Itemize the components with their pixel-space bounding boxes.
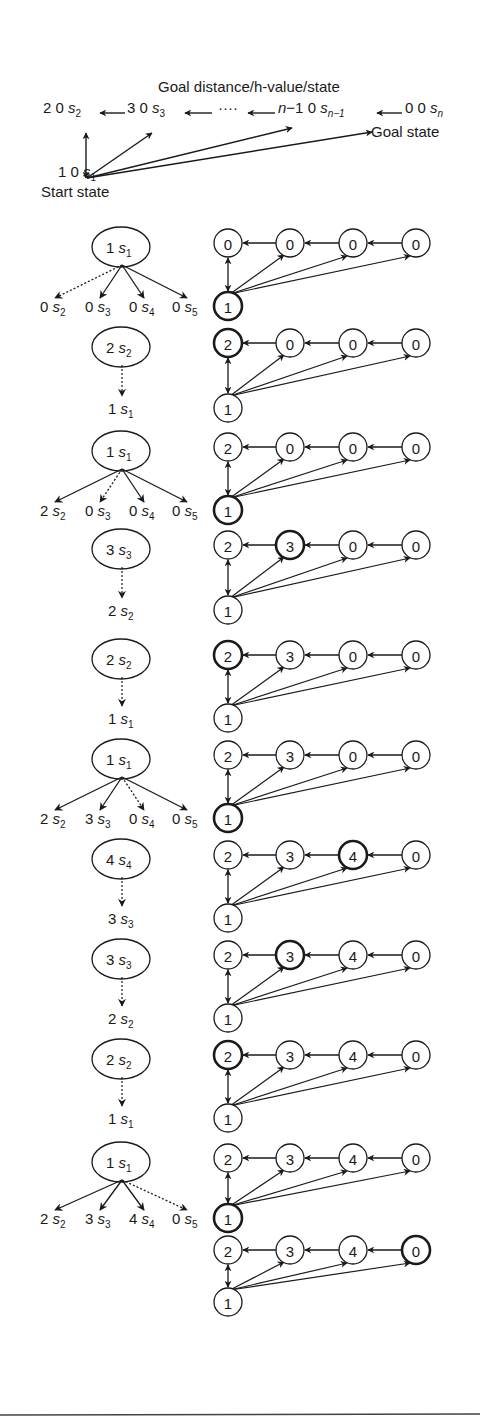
- svg-text:0: 0: [412, 948, 420, 965]
- svg-text:3 0 s3: 3 0 s3: [127, 99, 166, 119]
- state-graph: 23401: [214, 1041, 430, 1132]
- state-node: 3: [276, 531, 304, 559]
- svg-text:4: 4: [349, 848, 357, 865]
- svg-text:n−1 0 sn−1: n−1 0 sn−1: [278, 99, 345, 119]
- step-row: 200011 s12 s20 s30 s40 s5: [40, 431, 430, 524]
- svg-text:4: 4: [349, 1243, 357, 1260]
- svg-text:3: 3: [286, 538, 294, 555]
- svg-text:4: 4: [349, 948, 357, 965]
- svg-text:2: 2: [224, 648, 232, 665]
- chain-node-s3: 3 0 s3: [127, 99, 166, 119]
- state-node: 0: [339, 433, 367, 461]
- step-row: 234014 s43 s3: [92, 839, 430, 932]
- state-node-start: 1: [214, 804, 242, 832]
- svg-text:3: 3: [286, 848, 294, 865]
- step-row: 234012 s21 s1: [92, 1039, 430, 1132]
- svg-text:1 0 s1: 1 0 s1: [58, 163, 97, 183]
- state-node: 2: [214, 841, 242, 869]
- state-graph: 23401: [214, 941, 430, 1032]
- state-node: 3: [276, 741, 304, 769]
- svg-text:1: 1: [224, 401, 232, 418]
- state-node: 0: [339, 229, 367, 257]
- svg-text:0: 0: [349, 236, 357, 253]
- state-graph: 20001: [214, 329, 430, 422]
- expansion-tree: 1 s10 s20 s30 s40 s5: [40, 227, 198, 318]
- svg-text:2 0 s2: 2 0 s2: [43, 99, 82, 119]
- svg-text:2: 2: [224, 440, 232, 457]
- step-list: 000011 s10 s20 s30 s40 s5200012 s21 s120…: [40, 227, 430, 1316]
- svg-text:0: 0: [412, 1243, 420, 1260]
- state-node: 3: [276, 1144, 304, 1172]
- svg-text:3: 3: [286, 748, 294, 765]
- svg-text:0: 0: [412, 648, 420, 665]
- chain-node-s2: 2 0 s2: [43, 99, 82, 119]
- state-node: 0: [339, 741, 367, 769]
- child-node-label: 3 s3: [85, 1210, 111, 1230]
- move-target-label: 2 s2: [108, 1010, 134, 1030]
- svg-text:2: 2: [224, 1243, 232, 1260]
- state-node-start: 1: [214, 596, 242, 624]
- svg-text:2: 2: [224, 336, 232, 353]
- svg-text:1: 1: [224, 503, 232, 520]
- state-node: 0: [402, 1236, 430, 1264]
- state-node: 0: [276, 329, 304, 357]
- state-node: 4: [339, 841, 367, 869]
- child-node-label: 0 s5: [172, 810, 198, 830]
- svg-text:0: 0: [286, 336, 294, 353]
- state-node: 3: [276, 941, 304, 969]
- header-diagram: Goal distance/h-value/state 2 0 s2 3 0 s…: [41, 78, 444, 200]
- svg-text:1: 1: [224, 811, 232, 828]
- state-node: 2: [214, 741, 242, 769]
- move-target-label: 1 s1: [108, 1110, 134, 1130]
- bottom-rule: [0, 1414, 480, 1415]
- state-node-start: 1: [214, 904, 242, 932]
- state-node: 2: [214, 1041, 242, 1069]
- svg-text:1: 1: [224, 299, 232, 316]
- state-graph: 20001: [214, 433, 430, 524]
- step-row: 230011 s12 s23 s30 s40 s5: [40, 739, 430, 832]
- state-node: 3: [276, 1236, 304, 1264]
- svg-text:1: 1: [224, 603, 232, 620]
- svg-text:1: 1: [224, 1011, 232, 1028]
- state-node-start: 1: [214, 394, 242, 422]
- svg-text:1: 1: [224, 711, 232, 728]
- svg-text:0 0 sn: 0 0 sn: [405, 99, 444, 119]
- child-node-label: 2 s2: [40, 502, 66, 522]
- current-node-label: 2 s2: [106, 651, 132, 671]
- state-graph: 23401: [214, 1236, 430, 1316]
- state-node-start: 1: [214, 496, 242, 524]
- state-node: 0: [402, 1144, 430, 1172]
- state-node: 3: [276, 1041, 304, 1069]
- state-graph: 23401: [214, 841, 430, 932]
- child-node-label: 0 s5: [172, 1210, 198, 1230]
- state-graph: 23001: [214, 741, 430, 832]
- svg-text:0: 0: [349, 648, 357, 665]
- goal-state-label: Goal state: [371, 123, 439, 140]
- svg-text:0: 0: [412, 440, 420, 457]
- state-node: 4: [339, 941, 367, 969]
- child-node-label: 2 s2: [40, 1210, 66, 1230]
- svg-text:3: 3: [286, 1048, 294, 1065]
- child-node-label: 3 s3: [85, 810, 111, 830]
- svg-text:0: 0: [412, 336, 420, 353]
- state-node: 0: [402, 1041, 430, 1069]
- svg-text:0: 0: [412, 848, 420, 865]
- svg-text:1: 1: [224, 911, 232, 928]
- state-node: 0: [402, 329, 430, 357]
- state-node: 2: [214, 1144, 242, 1172]
- svg-text:0: 0: [349, 440, 357, 457]
- move-step: 3 s32 s2: [92, 939, 150, 1030]
- child-node-label: 0 s3: [85, 502, 111, 522]
- header-title: Goal distance/h-value/state: [158, 78, 340, 95]
- child-node-label: 0 s5: [172, 298, 198, 318]
- svg-text:1: 1: [224, 1295, 232, 1312]
- child-node-label: 0 s3: [85, 298, 111, 318]
- move-step: 2 s21 s1: [92, 639, 150, 730]
- svg-text:4: 4: [349, 1048, 357, 1065]
- svg-text:1: 1: [224, 1211, 232, 1228]
- current-node-label: 1 s1: [106, 751, 132, 771]
- step-row: 234013 s32 s2: [92, 939, 430, 1032]
- svg-text:0: 0: [412, 538, 420, 555]
- state-node-start: 1: [214, 1104, 242, 1132]
- state-graph: 23401: [214, 1144, 430, 1232]
